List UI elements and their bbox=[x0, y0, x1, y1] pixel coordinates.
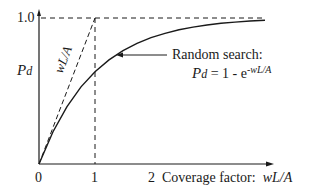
y-axis-label: Pd bbox=[17, 63, 32, 78]
x-tick-2: 2 bbox=[148, 171, 155, 185]
linear-dashed-line bbox=[39, 18, 95, 164]
y-axis-arrow-icon bbox=[37, 9, 41, 16]
x-axis-arrow-icon bbox=[266, 162, 274, 167]
random-search-curve bbox=[39, 20, 265, 164]
chart-canvas bbox=[0, 0, 311, 194]
y-axis-label-P: P bbox=[17, 62, 26, 78]
x-axis-title: Coverage factor: wL/A bbox=[162, 171, 292, 185]
y-tick-1-0: 1.0 bbox=[17, 11, 35, 25]
x-axis-title-var: wL/A bbox=[263, 170, 293, 185]
formula-P: P bbox=[192, 65, 201, 81]
formula-eq: = 1 - e bbox=[207, 66, 247, 81]
x-tick-0: 0 bbox=[35, 171, 42, 185]
curve-formula: Pd = 1 - e-wL/A bbox=[192, 66, 271, 81]
curve-label-title: Random search: bbox=[172, 48, 263, 62]
formula-exp: -wL/A bbox=[247, 64, 271, 75]
y-axis-label-sub: d bbox=[26, 64, 32, 78]
x-tick-1: 1 bbox=[91, 171, 98, 185]
x-axis-title-text: Coverage factor: bbox=[162, 170, 256, 185]
